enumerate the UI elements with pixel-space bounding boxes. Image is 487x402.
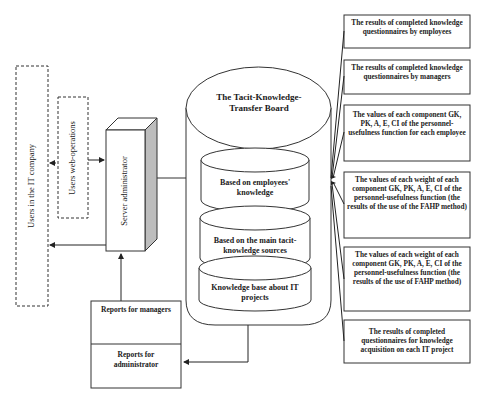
input-label-4: The values of each weight of each compon… xyxy=(346,175,468,211)
server-administrator-label: Server administrator xyxy=(119,131,131,251)
input-label-1: The results of completed knowledge quest… xyxy=(350,18,464,36)
db-it-projects-label: Knowledge base about IT projects xyxy=(203,283,307,303)
input-label-3: The values of each component GK, PK, A, … xyxy=(347,110,467,137)
reports-managers-label: Reports for managers xyxy=(93,305,179,315)
input-label-6: The results of completed questionnaires … xyxy=(348,327,466,354)
input-label-5: The values of each weight of each compon… xyxy=(346,250,468,286)
db-employees-label: Based on employees' knowledge xyxy=(213,178,297,198)
board-title: The Tacit-Knowledge-Transfer Board xyxy=(210,92,308,114)
users-company-label: Users in the IT company xyxy=(26,96,38,276)
users-web-operations-label: Users web-operations xyxy=(67,98,79,218)
input-label-2: The results of completed knowledge quest… xyxy=(350,63,464,81)
server-administrator-box xyxy=(106,118,157,251)
reports-administrator-label: Reports for administrator xyxy=(100,350,172,370)
db-tacit-sources-label: Based on the main tacit-knowledge source… xyxy=(208,236,302,256)
input-connectors xyxy=(331,31,344,341)
